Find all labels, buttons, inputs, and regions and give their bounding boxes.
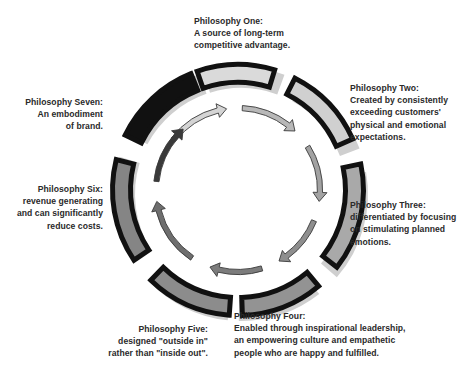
philosophy-six-line-1: revenue generating	[17, 195, 103, 207]
philosophy-one-title: Philosophy One:	[194, 15, 290, 27]
philosophy-seven-line-2: of brand.	[25, 120, 103, 132]
philosophy-five-label: Philosophy Five: designed "outside in" r…	[108, 323, 208, 360]
ring-segment-five	[151, 267, 231, 315]
philosophy-four-line-1: Enabled through inspirational leadership…	[234, 322, 406, 334]
philosophy-three-line-2: on stimulating planned	[350, 223, 456, 235]
cycle-arrow-icon	[242, 106, 295, 131]
philosophy-six-label: Philosophy Six: revenue generating and c…	[17, 183, 103, 232]
philosophy-two-line-1: Created by consistently	[350, 94, 448, 106]
philosophy-seven-label: Philosophy Seven: An embodiment of brand…	[25, 96, 103, 133]
cycle-arrow-icon	[279, 220, 316, 262]
cycle-arrow-icon	[210, 263, 263, 277]
philosophy-five-line-1: designed "outside in"	[108, 335, 208, 347]
philosophy-one-line-2: competitive advantage.	[194, 39, 290, 51]
philosophy-seven-line-1: An embodiment	[25, 108, 103, 120]
cycle-arrow-icon	[305, 145, 327, 201]
philosophy-three-title: Philosophy Three:	[350, 199, 456, 211]
philosophy-two-label: Philosophy Two: Created by consistently …	[350, 82, 448, 143]
ring-segments	[113, 64, 364, 315]
philosophy-five-line-2: rather than "inside out".	[108, 347, 208, 359]
philosophy-two-line-4: expectations.	[350, 131, 448, 143]
ring-segment-six	[113, 160, 149, 261]
ring-segment-one	[197, 64, 275, 88]
philosophy-two-line-2: exceeding customers'	[350, 106, 448, 118]
cycle-arrows	[152, 104, 327, 277]
ring-segment-seven	[125, 74, 198, 143]
philosophy-four-line-2: an empowering culture and empathetic	[234, 334, 406, 346]
philosophy-four-title: Philosophy Four:	[234, 310, 406, 322]
cycle-arrow-icon	[152, 201, 194, 260]
philosophy-two-line-3: physical and emotional	[350, 119, 448, 131]
philosophy-one-label: Philosophy One: A source of long-term co…	[194, 15, 290, 52]
philosophy-five-title: Philosophy Five:	[108, 323, 208, 335]
philosophy-one-line-1: A source of long-term	[194, 27, 290, 39]
philosophy-four-line-3: people who are happy and fulfilled.	[234, 347, 406, 359]
philosophy-six-title: Philosophy Six:	[17, 183, 103, 195]
philosophy-three-line-1: differentiated by focusing	[350, 211, 456, 223]
ring-segment-two	[287, 78, 353, 146]
cycle-arrow-icon	[154, 129, 183, 182]
philosophy-seven-title: Philosophy Seven:	[25, 96, 103, 108]
philosophy-four-label: Philosophy Four: Enabled through inspira…	[234, 310, 406, 359]
philosophy-two-title: Philosophy Two:	[350, 82, 448, 94]
philosophy-three-line-3: emotions.	[350, 236, 456, 248]
philosophy-six-line-3: reduce costs.	[17, 220, 103, 232]
philosophy-three-label: Philosophy Three: differentiated by focu…	[350, 199, 456, 248]
philosophy-six-line-2: and can significantly	[17, 207, 103, 219]
ring-segment-four	[242, 272, 319, 315]
